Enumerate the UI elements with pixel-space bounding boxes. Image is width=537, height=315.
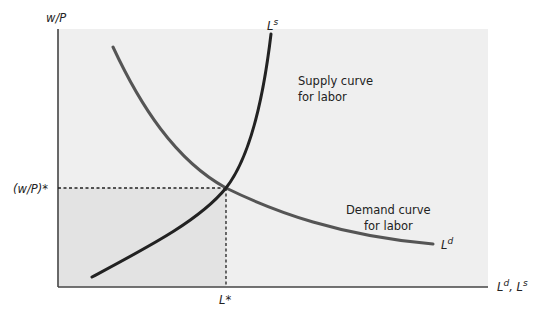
equilibrium-labor-label: L* bbox=[219, 293, 231, 307]
supply-annotation-line2: for labor bbox=[298, 90, 347, 104]
equilibrium-shaded-area bbox=[59, 188, 226, 286]
equilibrium-wage-label: (w/P)* bbox=[13, 182, 48, 196]
y-axis-label: w/P bbox=[46, 11, 66, 25]
demand-annotation-line2: for labor bbox=[364, 219, 413, 233]
supply-annotation-line1: Supply curve bbox=[298, 74, 373, 88]
labor-market-chart: w/P (w/P)* L* Ld, Ls Ls Ld Supply curve … bbox=[0, 0, 537, 315]
demand-annotation-line1: Demand curve bbox=[346, 203, 431, 217]
x-axis-label: Ld, Ls bbox=[497, 278, 528, 294]
